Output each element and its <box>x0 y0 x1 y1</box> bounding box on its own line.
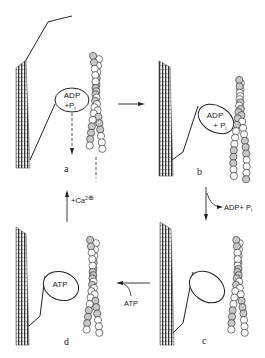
transition-c-to-d: ATP <box>116 281 150 308</box>
actin-monomer <box>241 137 248 144</box>
actin-monomer <box>243 169 250 176</box>
actin-monomer <box>97 126 104 133</box>
actin-monomer <box>89 116 96 123</box>
myosin-lever <box>30 104 55 160</box>
panel-label-a: a <box>64 163 69 174</box>
release-curve <box>207 193 219 207</box>
transition-a-to-b <box>118 102 145 106</box>
actin-monomer <box>239 304 246 311</box>
actin-monomer <box>228 313 235 320</box>
myosin-lever <box>29 276 45 326</box>
actin-monomer <box>87 243 94 250</box>
atp-label: ATP <box>124 299 138 308</box>
actin-filament <box>228 236 249 336</box>
head-text-pi: +Pi <box>64 101 75 111</box>
arrowhead-right <box>138 102 145 106</box>
actin-monomer <box>228 326 235 333</box>
panel-c: c <box>160 222 248 346</box>
actin-monomer <box>232 128 239 135</box>
panel-label-d: d <box>64 336 69 347</box>
actin-monomer <box>90 59 97 66</box>
actin-monomer <box>95 323 102 330</box>
actin-monomer <box>96 120 103 127</box>
actin-monomer <box>240 131 247 138</box>
actin-monomer <box>229 307 236 314</box>
actin-monomer <box>243 176 250 183</box>
panel-label-c: c <box>202 335 207 346</box>
actin-monomer <box>87 136 94 143</box>
actin-monomer <box>233 243 240 250</box>
actin-monomer <box>99 145 106 152</box>
head-text-adp: ADP <box>207 111 223 120</box>
panel-d: ATP d <box>16 227 103 347</box>
actin-monomer <box>91 65 98 72</box>
actin-monomer <box>86 300 93 307</box>
actin-monomer <box>230 166 237 173</box>
actin-monomer <box>231 294 238 301</box>
actin-monomer <box>93 304 100 311</box>
myosin-lever-upper <box>26 16 72 60</box>
actin-monomer <box>242 144 249 151</box>
actin-monomer <box>84 313 91 320</box>
actin-monomer <box>97 132 104 139</box>
actin-monomer <box>231 140 238 147</box>
arrowhead-down <box>70 148 74 155</box>
arrowhead-left <box>116 281 123 285</box>
head-text-adp: ADP <box>64 91 80 100</box>
actin-filament <box>230 76 251 182</box>
actin-monomer <box>240 316 247 323</box>
actin-monomer <box>230 147 237 154</box>
thick-filament <box>16 227 29 345</box>
actin-monomer <box>84 320 91 327</box>
actin-monomer <box>87 129 94 136</box>
actin-monomer <box>236 76 243 83</box>
actin-monomer <box>241 329 248 336</box>
head-text-atp: ATP <box>53 280 68 289</box>
arrowhead-up <box>65 190 69 197</box>
release-label: ADP+ Pi <box>224 203 252 213</box>
transition-b-to-c: ADP+ Pi <box>204 187 252 221</box>
actin-monomer <box>232 134 239 141</box>
thick-filament <box>159 61 173 176</box>
myosin-head <box>183 265 230 310</box>
thick-filament <box>160 222 174 345</box>
panel-label-b: b <box>197 166 202 177</box>
actin-monomer <box>230 300 237 307</box>
myosin-lever <box>172 106 198 160</box>
actin-monomer <box>240 310 247 317</box>
actin-monomer <box>94 316 101 323</box>
actin-monomer <box>87 236 94 243</box>
actin-monomer <box>243 150 250 157</box>
calcium-label: +Ca2⊕ <box>71 194 94 205</box>
head-text-pi: + Pi <box>213 121 226 131</box>
actin-monomer <box>96 329 103 336</box>
thick-filament <box>16 60 30 168</box>
actin-monomer <box>94 310 101 317</box>
actin-filament <box>83 236 103 336</box>
actin-monomer <box>86 142 93 149</box>
actin-monomer <box>90 52 97 59</box>
arrowhead-down <box>204 214 208 221</box>
actin-monomer <box>233 236 240 243</box>
transition-d-to-a: +Ca2⊕ <box>65 190 94 222</box>
actin-monomer <box>238 297 245 304</box>
arrowhead-right <box>217 205 223 209</box>
actin-monomer <box>83 326 90 333</box>
panel-a: ADP +Pi a <box>16 16 106 178</box>
atp-curve <box>124 284 131 296</box>
cross-bridge-cycle-diagram: ADP +Pi a ADP + Pi b ADP+ Pi <box>0 0 265 358</box>
actin-monomer <box>230 172 237 179</box>
actin-monomer <box>88 249 95 256</box>
actin-monomer <box>88 123 95 130</box>
actin-monomer <box>98 139 105 146</box>
panel-b: ADP + Pi b <box>159 61 250 183</box>
actin-monomer <box>85 307 92 314</box>
actin-monomer <box>240 124 247 131</box>
